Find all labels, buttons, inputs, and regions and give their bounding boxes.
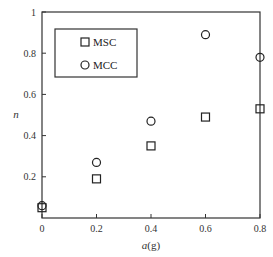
- x-tick-label: 0.4: [145, 223, 158, 234]
- msc-marker: [147, 142, 155, 150]
- plot-area: 00.20.40.60.80.20.40.60.81a(g)nMSCMCC: [13, 7, 266, 253]
- mcc-marker: [202, 31, 210, 39]
- msc-marker: [202, 113, 210, 121]
- x-tick-label: 0.8: [254, 223, 267, 234]
- msc-marker: [93, 175, 101, 183]
- x-tick-label: 0.6: [199, 223, 212, 234]
- legend-mcc-label: MCC: [93, 59, 117, 71]
- y-tick-label: 0.6: [24, 89, 37, 100]
- chart: 00.20.40.60.80.20.40.60.81a(g)nMSCMCC: [0, 0, 273, 257]
- y-axis-label: n: [13, 108, 19, 120]
- x-tick-label: 0: [40, 223, 45, 234]
- mcc-marker: [147, 117, 155, 125]
- y-tick-label: 1: [31, 7, 36, 18]
- mcc-marker: [93, 158, 101, 166]
- y-tick-label: 0.4: [24, 130, 37, 141]
- x-axis-label: a(g): [142, 239, 161, 252]
- y-tick-label: 0.2: [24, 171, 37, 182]
- y-tick-label: 0.8: [24, 48, 37, 59]
- legend-msc-label: MSC: [93, 36, 116, 48]
- x-tick-label: 0.2: [90, 223, 103, 234]
